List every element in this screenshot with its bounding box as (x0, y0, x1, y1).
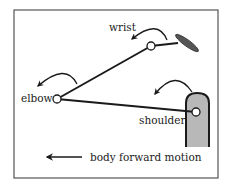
shoulder-rotation-arrow-icon (155, 80, 192, 94)
upper-segment-elbow-wrist (57, 46, 151, 99)
forward-motion-caption: body forward motion (90, 151, 202, 163)
wrist-label: wrist (109, 21, 137, 33)
shoulder-label: shoulder (139, 114, 187, 126)
elbow-joint-icon (53, 95, 61, 103)
wrist-rotation-arrow-icon (132, 29, 167, 40)
lower-segment-elbow-shoulder (57, 99, 196, 112)
elbow-rotation-arrow-icon (38, 73, 77, 86)
arm-motion-diagram: wrist elbow shoulder body forward motion (0, 0, 228, 190)
wrist-joint-icon (147, 42, 155, 50)
shoulder-joint-icon (192, 108, 200, 116)
torso-shape (186, 93, 209, 147)
elbow-label: elbow (21, 92, 53, 104)
